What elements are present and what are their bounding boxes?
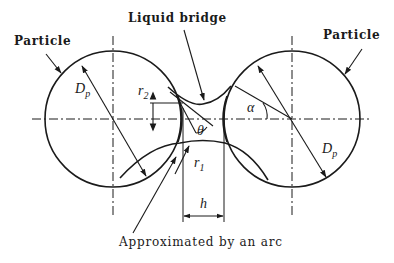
approximation-label: Approximated by an arc (119, 235, 283, 249)
h-symbol: h (200, 196, 207, 212)
bridge-top-meniscus (168, 86, 231, 104)
r2-symbol: r2 (138, 83, 148, 99)
dp-right-symbol: Dp (322, 141, 337, 157)
liquid-bridge-diagram: Liquid bridge Particle Particle Approxim… (0, 0, 394, 263)
liquid-bridge-leader (184, 30, 204, 100)
particle-left-leader (46, 54, 61, 73)
theta-tangent-line (170, 92, 213, 126)
liquid-bridge-label: Liquid bridge (128, 11, 227, 25)
particle-right-leader (345, 49, 362, 74)
theta-symbol: θ (197, 123, 204, 139)
particle-right-label: Particle (323, 28, 380, 42)
r2-arrow-up (151, 93, 156, 99)
alpha-radius-line (235, 86, 292, 119)
alpha-symbol: α (247, 100, 254, 116)
approximation-leader (133, 157, 176, 233)
r1-symbol: r1 (194, 155, 204, 171)
dp-left-arrow (82, 66, 146, 176)
dp-left-symbol: Dp (75, 81, 90, 97)
r1-arrow (175, 146, 189, 174)
alpha-angle-arc (263, 103, 267, 119)
r2-arrow-down (151, 124, 156, 130)
particle-left-label: Particle (14, 34, 71, 48)
